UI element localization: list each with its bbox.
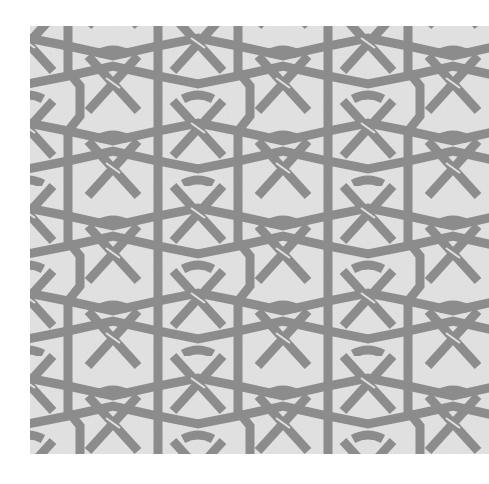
pattern-graphic [30,26,489,454]
interlace-pattern-image: Interlaced geometric star pattern [30,26,489,454]
